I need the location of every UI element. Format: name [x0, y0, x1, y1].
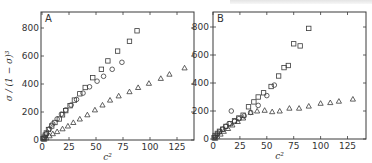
square-marker	[83, 85, 87, 89]
circle-marker	[256, 103, 261, 108]
triangle-marker	[336, 99, 341, 104]
x-tick-label: 125	[168, 142, 185, 152]
triangle-marker	[77, 116, 82, 121]
circle-marker	[110, 67, 115, 72]
y-tick-label: 0	[33, 135, 39, 145]
triangle-marker	[328, 100, 333, 105]
triangle-marker	[146, 81, 151, 86]
square-marker	[99, 67, 103, 71]
y-tick-label: 200	[22, 107, 39, 117]
panel-letter: A	[45, 13, 52, 24]
triangle-marker	[306, 104, 311, 109]
y-tick-label: 400	[22, 79, 39, 89]
square-marker	[298, 44, 302, 48]
triangle-marker	[350, 97, 355, 102]
triangle-marker	[167, 72, 172, 77]
square-marker	[91, 76, 95, 80]
circle-marker	[87, 85, 92, 90]
square-marker	[246, 105, 250, 109]
square-marker	[307, 26, 311, 30]
square-marker	[78, 92, 82, 96]
triangle-marker	[100, 102, 105, 107]
triangle-marker	[270, 109, 275, 114]
y-tick-label: 800	[22, 23, 39, 33]
triangle-marker	[116, 93, 121, 98]
panel-a: 02550751001250200400600800Ac²σ / (1 − σ)…	[4, 12, 194, 162]
triangle-marker	[262, 108, 267, 113]
triangle-marker	[65, 123, 70, 128]
x-axis-title: c²	[275, 151, 284, 161]
y-tick-label: 800	[192, 22, 209, 32]
x-tick-label: 100	[141, 142, 158, 152]
x-tick-label: 0	[39, 142, 45, 152]
triangle-marker	[158, 76, 163, 81]
triangle-marker	[55, 129, 60, 134]
panel-b: 02550751001250200400600800Bc²	[192, 12, 366, 161]
square-marker	[256, 95, 260, 99]
y-tick-label: 0	[203, 134, 209, 144]
figure: 02550751001250200400600800Ac²σ / (1 − σ)…	[0, 0, 372, 163]
square-marker	[282, 65, 286, 69]
triangle-marker	[318, 101, 323, 106]
y-tick-label: 400	[192, 78, 209, 88]
square-marker	[292, 42, 296, 46]
y-tick-label: 600	[192, 50, 209, 60]
square-marker	[135, 29, 139, 33]
x-tick-label: 75	[288, 141, 299, 151]
triangle-marker	[127, 89, 132, 94]
x-tick-label: 100	[312, 141, 329, 151]
square-marker	[252, 100, 256, 104]
x-tick-label: 125	[339, 141, 356, 151]
circle-marker	[95, 79, 100, 84]
square-marker	[115, 49, 119, 53]
triangle-marker	[107, 98, 112, 103]
x-tick-label: 25	[63, 142, 74, 152]
triangle-marker	[296, 106, 301, 111]
x-axis-title: c²	[103, 152, 112, 162]
y-tick-label: 600	[22, 51, 39, 61]
square-marker	[127, 39, 131, 43]
x-tick-label: 50	[261, 141, 273, 151]
y-axis-title: σ / (1 − σ)³	[4, 50, 14, 101]
circle-marker	[272, 83, 277, 88]
triangle-marker	[71, 120, 76, 125]
triangle-marker	[60, 126, 65, 131]
triangle-marker	[136, 85, 141, 90]
circle-marker	[229, 109, 234, 114]
triangle-marker	[182, 65, 187, 70]
y-tick-label: 200	[192, 106, 209, 116]
triangle-marker	[85, 112, 90, 117]
triangle-marker	[277, 108, 282, 113]
triangle-marker	[255, 108, 260, 113]
circle-marker	[81, 91, 86, 96]
x-tick-label: 50	[90, 142, 102, 152]
circle-marker	[265, 93, 270, 98]
x-tick-label: 25	[234, 141, 245, 151]
circle-marker	[101, 74, 106, 79]
circle-marker	[120, 60, 125, 65]
square-marker	[286, 63, 290, 67]
x-tick-label: 75	[117, 142, 128, 152]
panel-letter: B	[217, 13, 224, 24]
square-marker	[276, 74, 280, 78]
triangle-marker	[92, 107, 97, 112]
triangle-marker	[287, 106, 292, 111]
square-marker	[106, 59, 110, 63]
x-tick-label: 0	[210, 141, 216, 151]
